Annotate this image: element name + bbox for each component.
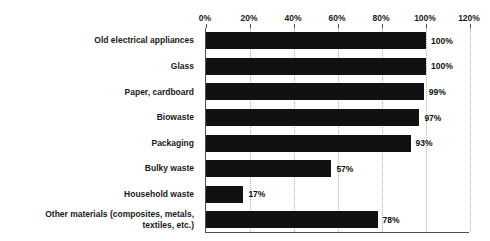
category-label: Glass (9, 61, 194, 72)
horizontal-bar-chart: 0%20%40%60%80%100%120% Old electrical ap… (0, 0, 490, 241)
bar[interactable]: 99% (206, 83, 424, 100)
bar-row[interactable]: 100% (206, 28, 469, 54)
bar[interactable]: 93% (206, 135, 411, 152)
bar-row[interactable]: 78% (206, 207, 469, 233)
category-label-line: Packaging (9, 138, 194, 149)
x-tick-label-40pct: 40% (284, 13, 301, 23)
category-label-line: Other materials (composites, metals, (9, 209, 194, 220)
x-tick-label-0pct: 0% (199, 13, 211, 23)
bar-value-label: 100% (431, 61, 453, 71)
category-label-line: Paper, cardboard (9, 87, 194, 98)
category-label: Other materials (composites, metals,text… (9, 209, 194, 231)
bar-series: 100%100%99%97%93%57%17%78% (206, 28, 469, 232)
category-label: Packaging (9, 138, 194, 149)
category-label: Bulky waste (9, 163, 194, 174)
bar-value-label: 97% (424, 113, 441, 123)
bar[interactable]: 57% (206, 160, 331, 177)
bar[interactable]: 97% (206, 109, 419, 126)
bar-row[interactable]: 17% (206, 182, 469, 208)
bar-row[interactable]: 99% (206, 79, 469, 105)
category-label-line: Bulky waste (9, 163, 194, 174)
category-label-line: textiles, etc.) (9, 220, 194, 231)
bar-value-label: 93% (416, 138, 433, 148)
x-tick-label-60pct: 60% (328, 13, 345, 23)
tickmark-120 (470, 24, 471, 28)
x-axis-tick-labels: 0%20%40%60%80%100%120% (0, 13, 490, 25)
category-label: Biowaste (9, 112, 194, 123)
bar-value-label: 78% (383, 215, 400, 225)
x-tick-label-120pct: 120% (458, 13, 480, 23)
bar-value-label: 99% (429, 87, 446, 97)
bar-value-label: 100% (431, 36, 453, 46)
bar-row[interactable]: 100% (206, 54, 469, 80)
x-tick-label-80pct: 80% (372, 13, 389, 23)
bar[interactable]: 100% (206, 32, 426, 49)
plot-area: 100%100%99%97%93%57%17%78% (205, 28, 469, 233)
bar[interactable]: 17% (206, 186, 243, 203)
category-label: Paper, cardboard (9, 87, 194, 98)
category-label: Household waste (9, 189, 194, 200)
category-label: Old electrical appliances (9, 35, 194, 46)
bar-row[interactable]: 93% (206, 130, 469, 156)
bar[interactable]: 78% (206, 211, 378, 228)
bar-row[interactable]: 57% (206, 156, 469, 182)
category-label-line: Biowaste (9, 112, 194, 123)
bar-value-label: 17% (248, 189, 265, 199)
gridline-120 (470, 28, 471, 232)
bar-value-label: 57% (336, 164, 353, 174)
category-axis-labels: Old electrical appliancesGlassPaper, car… (0, 28, 200, 233)
category-label-line: Household waste (9, 189, 194, 200)
x-tick-label-20pct: 20% (240, 13, 257, 23)
bar[interactable]: 100% (206, 58, 426, 75)
category-label-line: Old electrical appliances (9, 35, 194, 46)
category-label-line: Glass (9, 61, 194, 72)
bar-row[interactable]: 97% (206, 105, 469, 131)
x-tick-label-100pct: 100% (414, 13, 436, 23)
